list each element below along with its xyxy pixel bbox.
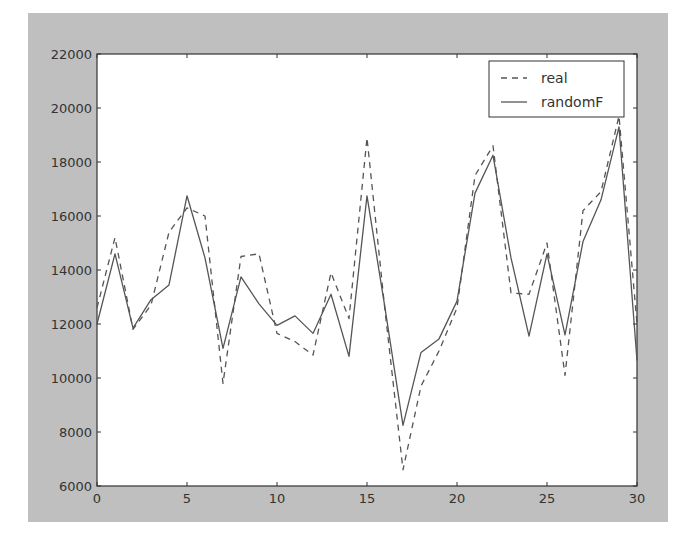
- y-tick-label: 18000: [51, 155, 92, 170]
- x-tick-label: 30: [629, 491, 646, 506]
- legend-label-randomf: randomF: [541, 94, 603, 110]
- y-tick-label: 10000: [51, 371, 92, 386]
- y-tick-label: 12000: [51, 317, 92, 332]
- x-tick-label: 5: [183, 491, 191, 506]
- figure-canvas: 6000800010000120001400016000180002000022…: [28, 13, 668, 522]
- x-tick-label: 20: [449, 491, 466, 506]
- x-tick-label: 0: [93, 491, 101, 506]
- y-tick-label: 22000: [51, 47, 92, 62]
- y-tick-label: 6000: [59, 479, 92, 494]
- y-tick-label: 20000: [51, 101, 92, 116]
- y-tick-label: 14000: [51, 263, 92, 278]
- x-tick-label: 10: [269, 491, 286, 506]
- y-tick-label: 16000: [51, 209, 92, 224]
- plot-area: [97, 54, 637, 486]
- x-tick-label: 15: [359, 491, 376, 506]
- x-tick-label: 25: [539, 491, 556, 506]
- axes-frame: [97, 54, 637, 486]
- legend: realrandomF: [489, 61, 624, 117]
- legend-label-real: real: [541, 70, 568, 86]
- line-chart: 6000800010000120001400016000180002000022…: [28, 13, 668, 522]
- y-tick-label: 8000: [59, 425, 92, 440]
